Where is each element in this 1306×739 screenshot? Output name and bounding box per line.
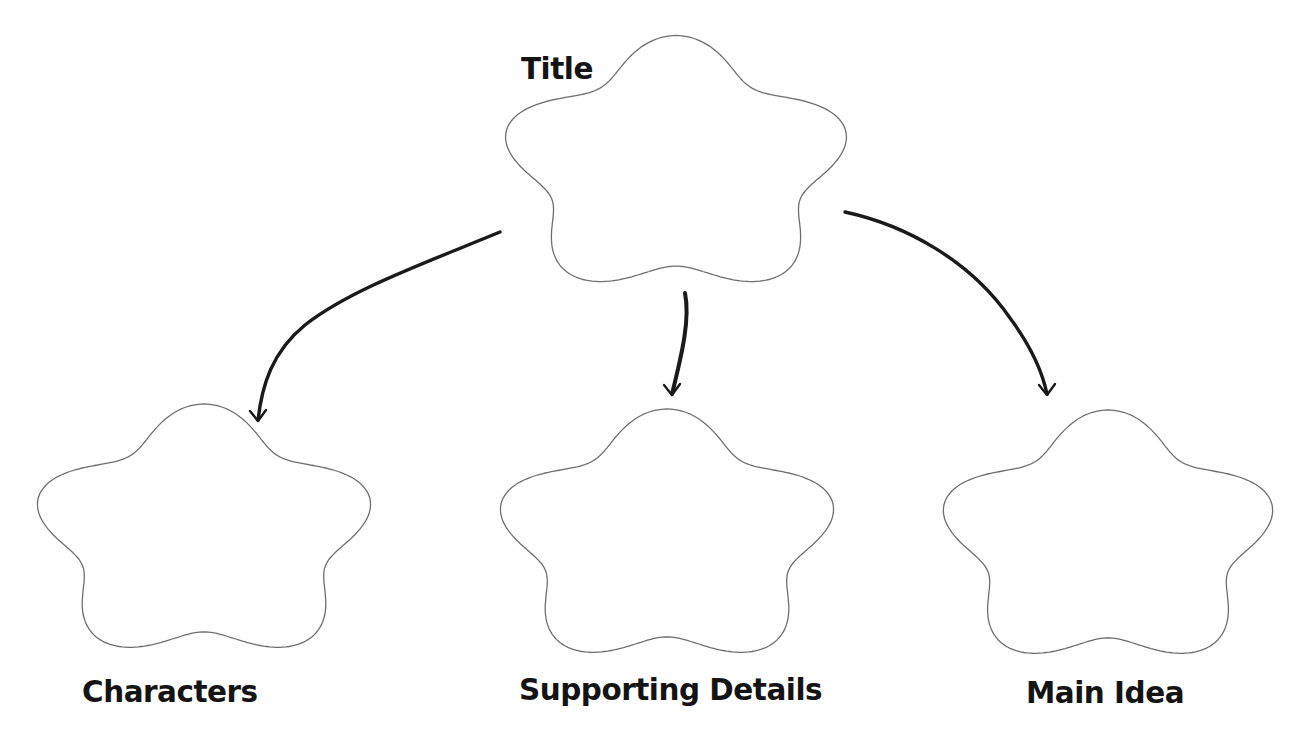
supporting-details-flower-shape — [501, 409, 834, 652]
arrow-title-to-supporting-details — [672, 293, 687, 394]
arrow-title-to-characters — [258, 232, 500, 420]
graphic-organizer: Title Characters Supporting Details Main… — [0, 0, 1306, 739]
main-idea-flower-shape — [943, 410, 1272, 653]
flowers-layer — [38, 36, 1273, 654]
main-idea-label: Main Idea — [1026, 674, 1184, 710]
characters-flower-shape — [38, 404, 371, 647]
diagram-canvas — [0, 0, 1306, 739]
characters-label: Characters — [82, 673, 258, 709]
supporting-details-label: Supporting Details — [519, 671, 822, 707]
arrow-title-to-main-idea — [845, 212, 1047, 394]
title-label: Title — [521, 50, 593, 86]
